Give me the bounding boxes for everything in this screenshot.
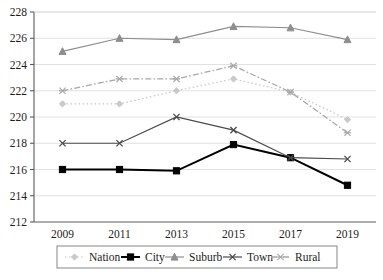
series-line-city [63, 145, 348, 186]
marker-diamond [344, 117, 350, 123]
marker-diamond [59, 101, 65, 107]
data-point-rural-2009 [59, 88, 66, 94]
series-suburb [59, 23, 351, 55]
x-tick-label-2019: 2019 [336, 228, 359, 240]
data-point-nation-2013 [173, 88, 179, 94]
y-tick-label-218: 218 [10, 137, 28, 149]
marker-square [230, 141, 236, 147]
series-line-suburb [63, 26, 348, 51]
marker-square [127, 254, 133, 260]
data-point-city-2015 [230, 141, 236, 147]
data-point-city-2011 [116, 166, 122, 172]
chart-legend: NationCitySuburbTownRural [57, 246, 337, 268]
legend-marker-city [127, 254, 133, 260]
data-point-nation-2015 [230, 76, 236, 82]
line-chart: 2122142162182202222242262282009201120132… [0, 0, 383, 280]
data-point-city-2019 [344, 182, 350, 188]
data-point-nation-2011 [116, 101, 122, 107]
data-point-rural-2013 [173, 76, 180, 82]
marker-square [116, 166, 122, 172]
y-tick-label-224: 224 [10, 59, 28, 71]
chart-canvas: 2122142162182202222242262282009201120132… [0, 0, 383, 280]
series-rural [59, 63, 351, 136]
data-point-city-2009 [59, 166, 65, 172]
legend-label-nation: Nation [89, 251, 121, 263]
marker-square [173, 168, 179, 174]
series-town [59, 114, 350, 162]
marker-diamond [230, 76, 236, 82]
legend-label-suburb: Suburb [189, 251, 222, 263]
marker-diamond [116, 101, 122, 107]
series-line-town [63, 117, 348, 159]
y-tick-label-222: 222 [10, 85, 28, 97]
x-tick-label-2015: 2015 [222, 228, 245, 240]
x-tick-label-2013: 2013 [165, 228, 188, 240]
x-tick-label-2009: 2009 [51, 228, 74, 240]
legend-label-rural: Rural [295, 251, 321, 263]
legend-label-town: Town [247, 251, 273, 263]
data-point-rural-2015 [230, 63, 237, 69]
y-tick-label-226: 226 [10, 32, 28, 44]
data-point-city-2013 [173, 168, 179, 174]
x-tick-label-2011: 2011 [108, 228, 131, 240]
series-line-nation [63, 79, 348, 120]
series-city [59, 141, 350, 188]
y-tick-label-212: 212 [10, 216, 28, 228]
y-tick-label-220: 220 [10, 111, 28, 123]
data-point-nation-2019 [344, 117, 350, 123]
legend-label-city: City [145, 251, 165, 264]
marker-square [59, 166, 65, 172]
x-tick-label-2017: 2017 [279, 228, 302, 240]
marker-square [344, 182, 350, 188]
y-tick-label-216: 216 [10, 164, 28, 176]
data-point-rural-2019 [344, 130, 351, 136]
data-point-rural-2011 [116, 76, 123, 82]
y-tick-label-228: 228 [10, 6, 28, 18]
data-point-nation-2009 [59, 101, 65, 107]
marker-diamond [173, 88, 179, 94]
y-tick-label-214: 214 [10, 190, 28, 202]
